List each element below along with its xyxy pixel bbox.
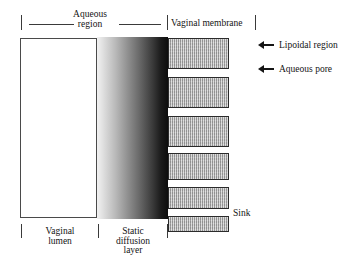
aqueous-pore-annotation: Aqueous pore xyxy=(279,64,332,74)
membrane-bar xyxy=(168,187,229,209)
top-tick-right xyxy=(255,15,256,30)
membrane-bar xyxy=(168,216,229,232)
membrane-bar xyxy=(168,116,229,147)
figure-canvas: Aqueous region Vaginal membrane Lipoidal… xyxy=(0,0,360,277)
static-diffusion-caption-line2: diffusion xyxy=(116,236,150,246)
vaginal-lumen-caption-line1: Vaginal xyxy=(45,226,74,236)
lipoidal-region-annotation: Lipoidal region xyxy=(279,40,338,50)
sink-label: Sink xyxy=(233,208,250,218)
membrane-bar xyxy=(168,38,229,69)
vaginal-lumen-caption: Vaginal lumen xyxy=(30,227,90,246)
bottom-tick-middle xyxy=(98,224,99,238)
vaginal-membrane-region xyxy=(168,37,229,219)
aqueous-region-label: Aqueous region xyxy=(60,10,120,29)
aqueous-region-label-line2: region xyxy=(78,19,102,29)
vaginal-membrane-label: Vaginal membrane xyxy=(171,19,243,29)
static-diffusion-layer-caption: Static diffusion layer xyxy=(103,227,163,256)
static-diffusion-caption-line1: Static xyxy=(122,226,144,236)
static-diffusion-layer-region xyxy=(97,37,168,219)
aqueous-region-label-line1: Aqueous xyxy=(73,9,107,19)
vaginal-lumen-caption-line2: lumen xyxy=(48,236,72,246)
bottom-tick-left xyxy=(21,224,22,238)
top-tick-left xyxy=(21,15,22,30)
top-rule-right xyxy=(119,24,161,25)
bottom-tick-right xyxy=(167,224,168,238)
membrane-bar xyxy=(168,153,229,180)
vaginal-lumen-region xyxy=(20,38,97,218)
top-tick-middle xyxy=(167,15,168,30)
membrane-bar xyxy=(168,77,229,108)
left-arrow-icon xyxy=(258,40,274,49)
left-arrow-icon xyxy=(258,64,274,73)
static-diffusion-caption-line3: layer xyxy=(124,245,143,255)
